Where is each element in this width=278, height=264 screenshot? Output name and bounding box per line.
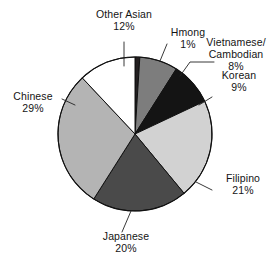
- pie-label-filipino: Filipino 21%: [212, 172, 274, 196]
- pie-slices-group: [58, 57, 212, 211]
- leader-line-filipino: [196, 182, 212, 190]
- pie-label-korean-value: 9%: [206, 81, 272, 93]
- pie-label-japanese-value: 20%: [84, 242, 168, 254]
- pie-label-vietnamese-name-line2: Cambodian: [196, 48, 276, 60]
- pie-label-other-asian-value: 12%: [76, 20, 172, 32]
- leader-line-japanese: [122, 211, 131, 232]
- pie-chart-figure: Other Asian 12% Hmong 1% Vietnamese/ Cam…: [0, 0, 278, 264]
- pie-label-japanese-name: Japanese: [84, 230, 168, 242]
- pie-label-chinese: Chinese 29%: [2, 90, 64, 114]
- pie-label-filipino-name: Filipino: [212, 172, 274, 184]
- pie-label-vietnamese-name-line1: Vietnamese/: [196, 36, 276, 48]
- pie-label-other-asian-name: Other Asian: [76, 8, 172, 20]
- pie-label-other-asian: Other Asian 12%: [76, 8, 172, 32]
- pie-label-chinese-name: Chinese: [2, 90, 64, 102]
- pie-label-korean: Korean 9%: [206, 69, 272, 93]
- pie-label-vietnamese-cambodian: Vietnamese/ Cambodian 8%: [196, 36, 276, 73]
- pie-label-korean-name: Korean: [206, 69, 272, 81]
- pie-label-japanese: Japanese 20%: [84, 230, 168, 254]
- pie-label-chinese-value: 29%: [2, 102, 64, 114]
- pie-label-filipino-value: 21%: [212, 184, 274, 196]
